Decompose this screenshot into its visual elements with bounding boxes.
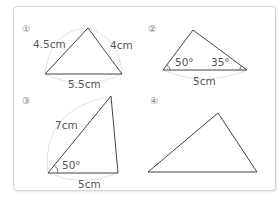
problem-3-number: ③ bbox=[22, 97, 30, 106]
triangle-3 bbox=[47, 96, 118, 181]
triangle-1-side-right: 4cm bbox=[110, 40, 133, 51]
problem-2-number: ② bbox=[148, 25, 156, 34]
triangle-3-side-left: 7cm bbox=[55, 120, 78, 131]
triangle-1-side-bottom: 5.5cm bbox=[68, 79, 101, 90]
triangle-3-side-bottom: 5cm bbox=[78, 179, 101, 190]
triangle-2 bbox=[163, 30, 247, 79]
triangle-2-side-bottom: 5cm bbox=[193, 76, 216, 87]
triangle-2-angle-right: 35° bbox=[211, 57, 230, 68]
triangle-4 bbox=[148, 113, 257, 172]
triangle-1 bbox=[45, 28, 122, 83]
problem-1-number: ① bbox=[22, 25, 30, 34]
triangle-1-side-left: 4.5cm bbox=[33, 39, 66, 50]
triangle-3-angle-left: 50° bbox=[62, 160, 81, 171]
problem-4-number: ④ bbox=[150, 97, 158, 106]
triangle-2-angle-left: 50° bbox=[175, 57, 194, 68]
triangles-figure bbox=[0, 0, 280, 202]
